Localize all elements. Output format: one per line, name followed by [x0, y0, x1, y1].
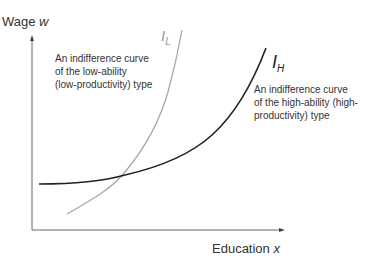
- annotation-high-ability: An indifference curve of the high-abilit…: [254, 83, 358, 122]
- y-axis-variable: w: [39, 14, 48, 29]
- curve-label-low-subscript: L: [165, 36, 171, 47]
- curve-label-low: IL: [161, 27, 171, 47]
- x-axis-arrow-icon: [279, 228, 285, 232]
- x-axis-label-text: Education: [212, 241, 270, 256]
- x-axis-variable: x: [273, 241, 280, 256]
- curve-label-high: IH: [272, 52, 284, 74]
- y-axis-label: Wage w: [2, 14, 49, 29]
- y-axis-arrow-icon: [30, 35, 34, 41]
- x-axis-label: Education x: [212, 241, 280, 256]
- y-axis-label-text: Wage: [2, 14, 35, 29]
- curve-label-high-subscript: H: [277, 63, 284, 74]
- diagram-canvas: [0, 0, 376, 264]
- annotation-low-ability: An indifference curve of the low-ability…: [55, 52, 152, 91]
